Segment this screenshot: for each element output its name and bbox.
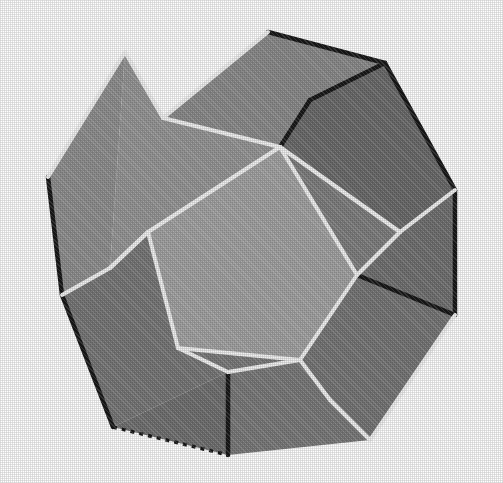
faces-group: [48, 32, 455, 455]
dodecahedron-figure: [0, 0, 503, 483]
dodecahedron-canvas: [0, 0, 503, 483]
